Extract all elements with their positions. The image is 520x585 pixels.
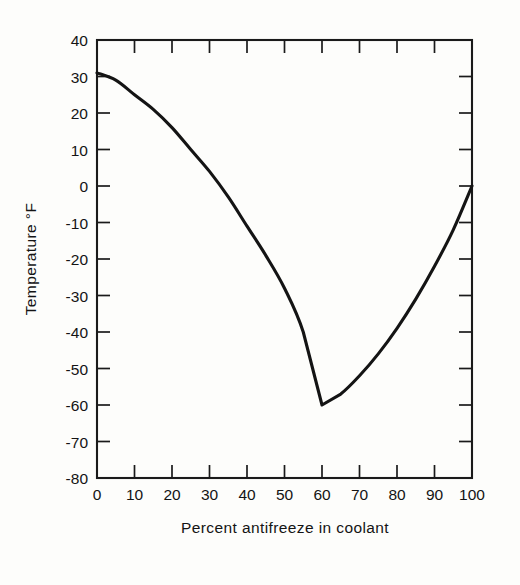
y-axis-title: Temperature °F xyxy=(22,203,39,316)
y-axis-ticks xyxy=(97,40,110,478)
y-label-neg30: -30 xyxy=(66,288,89,305)
x-label-30: 30 xyxy=(201,486,219,503)
y-label-neg60: -60 xyxy=(66,397,89,414)
y-label-neg50: -50 xyxy=(66,361,89,378)
y-label-10: 10 xyxy=(71,142,89,159)
y-label-neg80: -80 xyxy=(66,470,89,487)
y-axis-ticks-right xyxy=(459,77,472,442)
plot-frame xyxy=(97,40,472,478)
y-label-30: 30 xyxy=(71,69,89,86)
x-label-50: 50 xyxy=(276,486,294,503)
y-label-neg10: -10 xyxy=(66,215,89,232)
x-label-100: 100 xyxy=(459,486,485,503)
x-axis-ticks xyxy=(135,465,435,478)
plot-box xyxy=(97,40,472,478)
x-label-80: 80 xyxy=(388,486,406,503)
y-label-neg20: -20 xyxy=(66,251,89,268)
x-label-10: 10 xyxy=(126,486,144,503)
antifreeze-freezing-point-chart: 40 30 20 10 0 -10 -20 -30 -40 -50 -60 -7… xyxy=(0,0,520,585)
x-label-70: 70 xyxy=(351,486,369,503)
x-label-90: 90 xyxy=(426,486,444,503)
x-axis-title: Percent antifreeze in coolant xyxy=(181,519,389,536)
y-label-neg70: -70 xyxy=(66,434,89,451)
y-axis-tick-labels: 40 30 20 10 0 -10 -20 -30 -40 -50 -60 -7… xyxy=(66,32,89,487)
x-label-20: 20 xyxy=(163,486,181,503)
x-axis-ticks-top xyxy=(135,40,435,53)
y-label-neg40: -40 xyxy=(66,324,89,341)
x-axis-tick-labels: 0 10 20 30 40 50 60 70 80 90 100 xyxy=(93,486,486,503)
x-label-60: 60 xyxy=(313,486,331,503)
x-label-0: 0 xyxy=(93,486,102,503)
x-label-40: 40 xyxy=(238,486,256,503)
figure-container: 40 30 20 10 0 -10 -20 -30 -40 -50 -60 -7… xyxy=(0,0,520,585)
y-label-0: 0 xyxy=(79,178,88,195)
y-label-40: 40 xyxy=(71,32,89,49)
freezing-point-curve xyxy=(97,73,472,405)
y-label-20: 20 xyxy=(71,105,89,122)
